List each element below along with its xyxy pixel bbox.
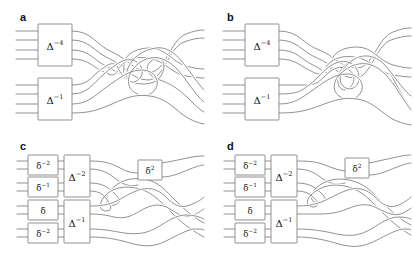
panel-d-box-delta-inv-1: Δ−1 (271, 200, 297, 243)
panel-b-box-delta-inv-4: Δ−4 (245, 24, 279, 66)
box-base: Δ (69, 172, 76, 183)
box-base: δ (40, 206, 45, 216)
braid-figure: a (0, 0, 413, 266)
panel-c-box-small-delta-inv-1: δ−1 (28, 177, 58, 197)
panel-b-input-leads (223, 31, 245, 113)
panel-c-box-small-delta-2: δ2 (138, 160, 162, 180)
box-exponent: −1 (41, 181, 50, 187)
panel-a-box-delta-inv-1: Δ−1 (38, 78, 72, 120)
box-exponent: 2 (358, 162, 362, 168)
panel-d-box-small-delta: δ (235, 200, 265, 220)
panel-d: d (207, 133, 413, 266)
panel-d-interbox-leads (265, 161, 271, 237)
box-base: Δ (254, 95, 261, 106)
panel-a-braid-strands (72, 30, 204, 124)
box-base: Δ (254, 41, 261, 52)
panel-c-interbox-leads (58, 161, 64, 237)
box-base: Δ (47, 95, 54, 106)
panel-d-box-small-delta-inv-2-top: δ−2 (235, 155, 265, 175)
box-exponent: −2 (248, 227, 257, 233)
box-exponent: −4 (261, 39, 271, 47)
panel-b: b (207, 0, 413, 133)
panel-d-input-leads (224, 161, 235, 237)
box-exponent: −2 (41, 227, 50, 233)
box-exponent: −1 (248, 181, 257, 187)
panel-c-box-delta-inv-2: Δ−2 (64, 155, 90, 197)
panel-d-braid: δ−2 δ−1 Δ−2 δ δ−2 Δ−1 (207, 133, 413, 266)
box-exponent: −2 (76, 170, 86, 178)
panel-d-box-small-delta-inv-1: δ−1 (235, 177, 265, 197)
panel-c-input-leads (17, 161, 28, 237)
box-base: Δ (47, 41, 54, 52)
svg-text:δ: δ (40, 206, 45, 216)
panel-a-input-leads (16, 31, 38, 113)
box-exponent: −1 (261, 93, 271, 101)
box-base: Δ (69, 218, 76, 229)
box-exponent: −1 (283, 216, 293, 224)
box-exponent: 2 (151, 164, 155, 170)
panel-c-box-small-delta-inv-2-top: δ−2 (28, 155, 58, 175)
panel-d-box-small-delta-inv-2-bottom: δ−2 (235, 223, 265, 243)
panel-d-box-delta-inv-2: Δ−2 (271, 155, 297, 197)
panel-a-box-delta-inv-4: Δ−4 (38, 24, 72, 66)
panel-d-box-small-delta-2: δ2 (345, 158, 369, 178)
panel-c-box-small-delta: δ (28, 200, 58, 220)
box-exponent: −1 (76, 216, 86, 224)
box-exponent: −1 (54, 93, 64, 101)
box-base: δ (247, 206, 252, 216)
box-base: Δ (276, 172, 283, 183)
panel-c-box-delta-inv-1: Δ−1 (64, 200, 90, 243)
panel-a: a (0, 0, 206, 133)
box-base: Δ (276, 218, 283, 229)
panel-b-braid: Δ−4 Δ−1 (207, 0, 413, 133)
panel-c: c (0, 133, 206, 266)
svg-text:δ: δ (247, 206, 252, 216)
panel-b-braid-strands (279, 28, 411, 125)
box-exponent: −2 (248, 159, 257, 165)
box-exponent: −2 (283, 170, 293, 178)
panel-c-braid: δ−2 δ−1 Δ−2 δ δ−2 Δ−1 (0, 133, 206, 266)
box-exponent: −2 (41, 159, 50, 165)
panel-a-braid: Δ−4 Δ−1 (0, 0, 206, 133)
panel-b-box-delta-inv-1: Δ−1 (245, 78, 279, 120)
box-exponent: −4 (54, 39, 64, 47)
panel-c-box-small-delta-inv-2-bottom: δ−2 (28, 223, 58, 243)
